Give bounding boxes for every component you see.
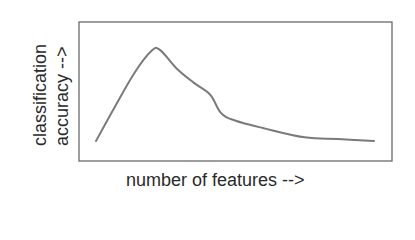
y-axis-label-line1: classification [30, 44, 50, 146]
accuracy-curve [96, 48, 374, 141]
x-axis-label: number of features --> [126, 170, 305, 190]
y-axis-label-line2: accuracy --> [52, 46, 72, 146]
